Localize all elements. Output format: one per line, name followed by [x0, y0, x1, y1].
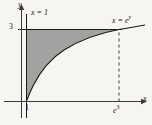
figure-canvas: y x 3 1 e3 x = 1 x = ey: [0, 0, 152, 125]
x-tick-label-1: 1: [25, 104, 29, 112]
x-axis-label: x: [143, 95, 147, 103]
y-tick-label-3: 3: [9, 23, 13, 31]
curve-label-exponent: y: [129, 14, 132, 20]
x-tick-label-e-exponent: 3: [117, 104, 120, 110]
label-curve-x-equals-e-to-the-y: x = ey: [112, 14, 131, 25]
curve-label-base: x = e: [112, 16, 129, 25]
label-line-x-equals-1: x = 1: [31, 9, 48, 17]
shaded-region: [27, 30, 120, 102]
y-axis-label: y: [18, 1, 22, 9]
x-tick-label-e-cubed: e3: [113, 104, 120, 115]
